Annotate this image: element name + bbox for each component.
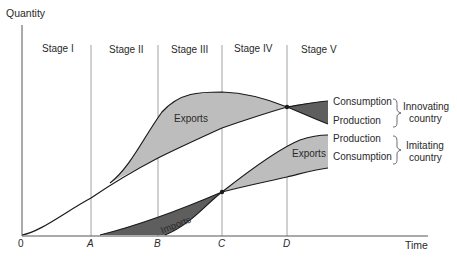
stage-label-2: Stage II xyxy=(109,44,143,55)
imitating-exports-region xyxy=(222,135,328,192)
imitating-brace-icon xyxy=(393,136,401,164)
x-axis-label: Time xyxy=(405,239,428,251)
y-axis-label: Quantity xyxy=(6,7,46,19)
stage-label-4: Stage IV xyxy=(234,43,273,54)
time-mark-a: A xyxy=(86,238,94,249)
imitating-crossover-point xyxy=(220,190,224,194)
innovating-consumption-label: Consumption xyxy=(333,96,392,107)
innovating-exports-label: Exports xyxy=(174,113,208,124)
stage-label-3: Stage III xyxy=(171,44,208,55)
imitating-label-line2: country xyxy=(409,152,442,163)
innovating-crossover-point xyxy=(285,105,289,109)
stage-label-5: Stage V xyxy=(301,44,337,55)
product-life-cycle-diagram: Quantity Time 0 A B C D Stage I Stage II… xyxy=(0,0,457,260)
innovating-brace-icon xyxy=(393,99,401,127)
imitating-production-label: Production xyxy=(333,133,381,144)
time-mark-b: B xyxy=(154,238,161,249)
imitating-label-line1: Imitating xyxy=(406,140,444,151)
stage-label-1: Stage I xyxy=(42,43,74,54)
innovating-label-line1: Innovating xyxy=(403,101,449,112)
origin-label: 0 xyxy=(18,238,24,249)
imitating-consumption-label: Consumption xyxy=(333,151,392,162)
innovating-label-line2: country xyxy=(409,113,442,124)
axes xyxy=(22,25,428,236)
time-mark-d: D xyxy=(283,238,290,249)
imitating-consumption-curve xyxy=(100,168,328,235)
time-mark-c: C xyxy=(218,238,226,249)
innovating-production-label: Production xyxy=(333,115,381,126)
imitating-exports-label: Exports xyxy=(292,148,326,159)
innovating-imports-region xyxy=(287,101,328,124)
